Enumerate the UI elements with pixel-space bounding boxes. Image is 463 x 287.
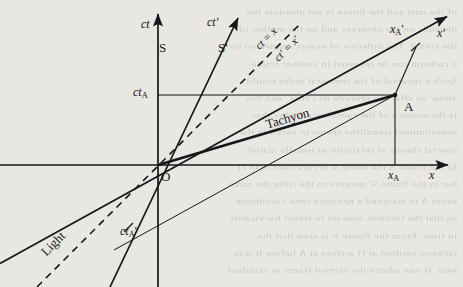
event-A-label: A	[404, 100, 413, 113]
x-A-prime-tick	[411, 43, 420, 51]
diagram-canvas	[0, 0, 463, 287]
ct-A-prime-label-base: ct	[120, 224, 129, 238]
axis-ct-prime-label: ct'	[207, 16, 218, 28]
x-A-prime-label-mark: '	[401, 22, 403, 36]
spacetime-diagram: ct S ct' S' x x' O A xA ctA xA' ctA' Tac…	[0, 0, 463, 287]
x-A-label: xA	[388, 169, 399, 184]
ct-A-label: ctA	[133, 86, 148, 101]
frame-S-prime-label: S'	[218, 41, 228, 54]
axis-ct-label: ct	[141, 18, 150, 30]
x-A-prime-projection-line	[395, 47, 416, 95]
event-A-point	[393, 93, 398, 98]
figure-page: of the past and the future is not absolu…	[0, 0, 463, 287]
tachyon-worldline	[158, 95, 395, 165]
axis-x-label: x	[429, 169, 434, 181]
ct-A-prime-label-mark: '	[135, 224, 137, 238]
axis-x-prime-label: x'	[437, 27, 445, 39]
ct-A-prime-projection-line	[114, 95, 395, 250]
light-cone-line	[37, 24, 300, 287]
ct-A-label-base: ct	[133, 85, 142, 99]
ct-A-label-sub: A	[142, 91, 148, 100]
origin-label: O	[161, 170, 170, 183]
frame-S-label: S	[159, 41, 166, 54]
x-A-label-sub: A	[393, 174, 399, 183]
axis-ct-prime-line	[110, 18, 238, 287]
x-A-prime-label: xA'	[390, 23, 404, 38]
ct-A-prime-label: ctA'	[120, 225, 137, 240]
